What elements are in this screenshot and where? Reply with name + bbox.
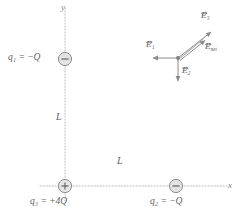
charge-label-q2: q₂ = −Q: [150, 197, 183, 207]
charge-label-q3-text: q₃ = +4Q: [30, 196, 67, 206]
vector-label-E1: E₁: [146, 40, 155, 49]
physics-field-diagram: y x q₁ = −Q q₃ = +4Q q₂ = −Q L L E₁ E₂: [0, 0, 245, 215]
vector-Enet-second-stroke: [179, 40, 203, 60]
charge-q3-symbol: [58, 179, 71, 192]
vector-arrow-overbar-E3: [201, 11, 208, 15]
vector-label-Enet-subscript: net: [211, 46, 217, 52]
vector-Enet: [180, 41, 205, 61]
vector-arrow-overbar-E2: [182, 66, 189, 70]
distance-label-vertical: L: [56, 112, 62, 122]
vector-label-E2: E₂: [182, 66, 191, 75]
y-axis-label: y: [61, 3, 65, 12]
vector-arrow-overbar-Enet: [205, 42, 212, 46]
distance-label-horizontal: L: [117, 156, 123, 166]
charge-label-q1: q₁ = −Q: [8, 53, 41, 63]
charge-q2-symbol: [169, 179, 182, 192]
charge-label-q3: q₃ = +4Q: [30, 197, 67, 207]
vector-label-Enet: Enet: [205, 42, 217, 52]
charge-q1-symbol: [58, 52, 71, 65]
vector-arrow-overbar-E1: [146, 40, 153, 44]
charge-label-q1-text: q₁ = −Q: [8, 52, 41, 62]
charge-label-q2-text: q₂ = −Q: [150, 196, 183, 206]
diagram-canvas: [0, 0, 245, 215]
x-axis-label: x: [228, 181, 232, 190]
vector-label-E3: E₃: [201, 11, 210, 20]
